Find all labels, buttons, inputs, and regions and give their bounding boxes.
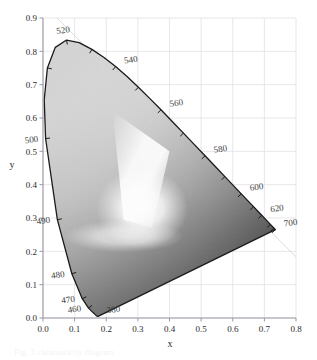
y-axis-label: y xyxy=(10,159,15,170)
wavelength-label: 380 xyxy=(106,303,121,315)
wavelength-label: 620 xyxy=(270,202,285,214)
y-tick-label: 0.7 xyxy=(26,80,38,90)
figure-caption-partial: Fig. 1 chromaticity diagram xyxy=(14,348,254,358)
wavelength-label: 560 xyxy=(169,97,184,109)
x-tick-label: 0.2 xyxy=(101,324,112,334)
y-tick-label: 0.4 xyxy=(26,180,38,190)
x-tick-label: 0.5 xyxy=(196,324,208,334)
chromaticity-figure: 0.00.10.20.30.40.50.60.70.8 0.00.10.20.3… xyxy=(0,0,317,360)
x-tick-label: 0.4 xyxy=(164,324,176,334)
x-tick-label: 0.6 xyxy=(227,324,239,334)
x-tick-label: 0.7 xyxy=(259,324,271,334)
wavelength-label: 700 xyxy=(283,217,298,229)
x-tick-label: 0.0 xyxy=(37,324,49,334)
y-tick-label: 0.5 xyxy=(26,147,38,157)
x-tick-label: 0.1 xyxy=(69,324,80,334)
x-tick-label: 0.8 xyxy=(290,324,302,334)
cie-chromaticity-chart: 0.00.10.20.30.40.50.60.70.8 0.00.10.20.3… xyxy=(0,0,317,360)
wavelength-label: 460 xyxy=(67,303,82,315)
y-tick-label: 0.2 xyxy=(26,247,37,257)
wavelength-label: 520 xyxy=(56,24,71,36)
y-tick-label: 0.0 xyxy=(26,313,38,323)
wavelength-label: 500 xyxy=(24,134,39,146)
wavelength-label: 490 xyxy=(36,215,51,227)
x-axis-tick-labels: 0.00.10.20.30.40.50.60.70.8 xyxy=(37,324,302,334)
y-tick-label: 0.9 xyxy=(26,13,38,23)
y-tick-label: 0.6 xyxy=(26,113,38,123)
y-tick-label: 0.8 xyxy=(26,47,38,57)
wavelength-label: 540 xyxy=(123,54,138,66)
y-tick-label: 0.1 xyxy=(26,280,37,290)
wavelength-label: 600 xyxy=(249,181,264,193)
wavelength-label: 480 xyxy=(50,269,65,281)
x-tick-label: 0.3 xyxy=(132,324,144,334)
wavelength-label: 580 xyxy=(213,143,228,155)
